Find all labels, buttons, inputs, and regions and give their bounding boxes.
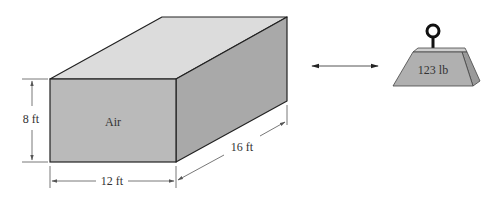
depth-label: 16 ft [231, 140, 254, 154]
weight-123lb: 123 lb [393, 25, 480, 86]
weight-top-face [413, 48, 467, 52]
width-label: 12 ft [101, 174, 124, 188]
width-dimension: 12 ft [50, 166, 176, 188]
box-content-label: Air [105, 115, 121, 129]
height-label: 8 ft [23, 112, 40, 126]
weight-label: 123 lb [418, 63, 448, 77]
air-weight-diagram: Air 8 ft 12 ft 16 ft 123 lb [0, 0, 497, 201]
height-dimension: 8 ft [22, 79, 48, 162]
weight-ring-icon [427, 25, 439, 37]
